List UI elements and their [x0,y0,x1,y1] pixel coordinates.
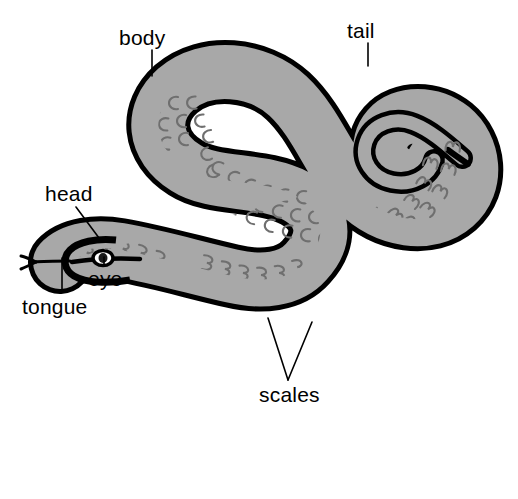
label-head: head [45,183,93,204]
leader-scales-left [268,318,288,380]
leader-scales-right [288,322,312,380]
label-eye: eye [88,268,122,289]
snake-eye [93,251,113,266]
label-scales: scales [259,384,320,405]
label-tongue: tongue [22,296,87,317]
snake-illustration [0,0,518,499]
snake-anatomy-diagram: body tail head eye tongue scales [0,0,518,499]
label-body: body [119,27,165,48]
label-tail: tail [347,20,375,41]
